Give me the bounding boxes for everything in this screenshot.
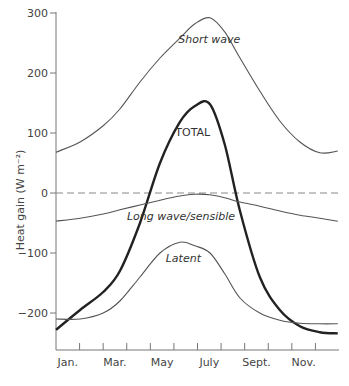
label-total: TOTAL xyxy=(174,126,211,139)
heat-gain-chart: 3002001000−100−200Jan.Mar.MayJulySept.No… xyxy=(0,0,349,386)
series-lines xyxy=(56,18,338,334)
label-short-wave: Short wave xyxy=(178,33,240,46)
y-tick-label: 300 xyxy=(27,7,48,20)
x-tick-label: Jan. xyxy=(57,356,78,369)
x-tick-label: July xyxy=(198,356,219,369)
x-tick-label: May xyxy=(151,356,174,369)
label-latent: Latent xyxy=(166,252,202,265)
y-tick-label: −200 xyxy=(18,307,48,320)
y-tick-label: 100 xyxy=(27,127,48,140)
axes: 3002001000−100−200Jan.Mar.MayJulySept.No… xyxy=(18,7,339,369)
x-tick-label: Sept. xyxy=(242,356,271,369)
series-labels: Short waveTOTALLong wave/sensibleLatent xyxy=(127,33,241,265)
y-axis-label: Heat gain (W m⁻²) xyxy=(14,150,27,251)
label-long-wave-sensible: Long wave/sensible xyxy=(127,210,235,223)
y-tick-label: 200 xyxy=(27,67,48,80)
x-tick-label: Nov. xyxy=(292,356,316,369)
y-tick-label: 0 xyxy=(41,187,48,200)
x-tick-label: Mar. xyxy=(103,356,126,369)
